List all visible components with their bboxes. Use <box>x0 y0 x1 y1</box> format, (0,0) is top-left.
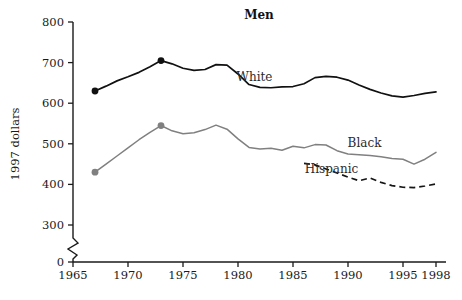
x-tick-label: 1975 <box>168 268 197 282</box>
x-tick-label: 1965 <box>58 268 87 282</box>
data-point-marker-black <box>92 169 99 176</box>
y-tick-label: 700 <box>42 56 64 70</box>
y-tick-label: 600 <box>42 96 64 110</box>
data-point-marker-white <box>92 88 99 95</box>
y-axis-line-with-break <box>68 22 78 262</box>
x-tick-label: 1990 <box>333 268 362 282</box>
series-line-black <box>95 125 436 172</box>
x-tick-label: 1998 <box>421 268 450 282</box>
y-tick-label: 400 <box>42 177 64 191</box>
x-tick-label: 1970 <box>113 268 142 282</box>
x-axis: 19651970197519801985199019951998 <box>58 262 450 282</box>
y-axis-title: 1997 dollars <box>8 107 22 180</box>
y-tick-label: 0 <box>57 255 64 269</box>
y-tick-label: 800 <box>42 15 64 29</box>
chart-container: 1997 dollars Men 0300400500600700800 196… <box>0 0 462 300</box>
line-chart: 1997 dollars Men 0300400500600700800 196… <box>0 0 462 300</box>
x-tick-label: 1980 <box>223 268 252 282</box>
y-axis: 0300400500600700800 <box>42 15 78 269</box>
data-point-marker-black <box>158 122 165 129</box>
series-label-hispanic: Hispanic <box>305 162 359 176</box>
chart-title: Men <box>244 8 274 22</box>
x-tick-label: 1995 <box>388 268 417 282</box>
y-tick-label: 300 <box>42 218 64 232</box>
series-label-black: Black <box>348 136 383 150</box>
x-tick-label: 1985 <box>278 268 307 282</box>
series-label-white: White <box>237 70 273 84</box>
data-point-marker-white <box>158 57 165 64</box>
y-tick-label: 500 <box>42 137 64 151</box>
